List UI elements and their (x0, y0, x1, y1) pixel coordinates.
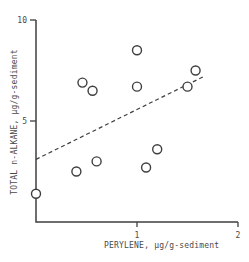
data-point (72, 167, 81, 176)
y-axis-label: TOTAL n-ALKANE, μg/g-sediment (10, 49, 19, 194)
data-point (92, 157, 101, 166)
y-tick-label: 10 (17, 16, 27, 25)
data-point (183, 82, 192, 91)
data-point (32, 189, 41, 198)
data-point (191, 66, 200, 75)
scatter-plot-canvas: 51012 (0, 0, 249, 262)
data-point (78, 78, 87, 87)
y-tick-label: 5 (22, 117, 27, 126)
x-axis-label: PERYLENE, μg/g-sediment (104, 241, 219, 250)
trend-line (36, 77, 204, 160)
scatter-plot-figure: 51012 TOTAL n-ALKANE, μg/g-sediment PERY… (0, 0, 249, 262)
data-point (153, 145, 162, 154)
data-point (88, 86, 97, 95)
data-point (133, 46, 142, 55)
x-tick-label: 1 (135, 231, 140, 240)
x-tick-label: 2 (236, 231, 241, 240)
data-point (142, 163, 151, 172)
data-point (133, 82, 142, 91)
